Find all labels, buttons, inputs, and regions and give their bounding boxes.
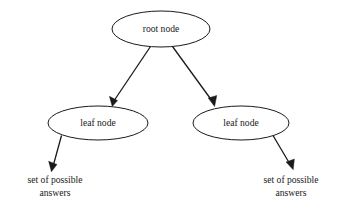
edge-root-to-right-leaf [173,47,217,107]
edge-root-to-left-leaf-line [114,47,151,102]
answers-right: set of possible answers [264,174,319,198]
root-node-label: root node [143,23,180,34]
answers-left: set of possible answers [28,174,83,198]
edge-root-to-right-leaf-line [173,47,213,102]
edge-right-leaf-to-answers [273,136,294,170]
edge-left-leaf-to-answers [49,136,62,172]
tree-diagram: root node leaf node leaf node set of pos… [0,0,342,217]
answers-right-line1: set of possible [264,174,319,185]
answers-left-line1: set of possible [28,174,83,185]
answers-right-line2: answers [276,187,307,198]
answers-left-line2: answers [40,187,71,198]
edge-right-leaf-to-answers-line [273,136,291,166]
node-leaf-right[interactable]: leaf node [193,106,289,140]
node-leaf-left[interactable]: leaf node [48,106,148,140]
node-root[interactable]: root node [112,11,210,47]
edge-root-to-left-leaf [109,47,150,107]
arrowhead-left-leaf-to-answers [49,161,57,172]
leaf-left-node-label: leaf node [80,117,115,128]
diagram-canvas: root node leaf node leaf node set of pos… [0,0,342,217]
edge-left-leaf-to-answers-line [53,136,62,167]
leaf-right-node-label: leaf node [223,117,258,128]
